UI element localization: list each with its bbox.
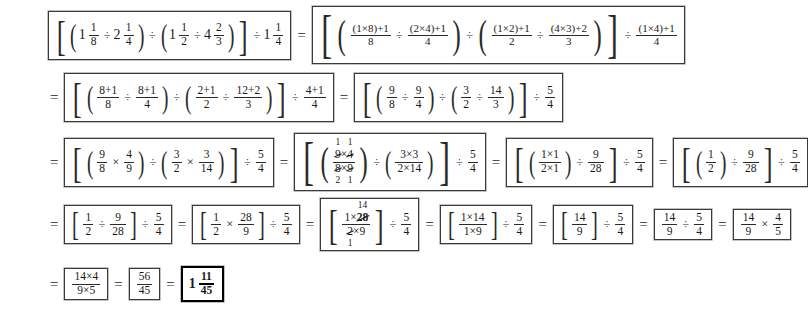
step-15-box: 149 × 45 (733, 209, 792, 240)
mixed-number: 4 23 (204, 22, 226, 47)
solution-line-4: = [ 12 ÷ 928 ] ÷ 54 = [ 12 × 289 ] ÷ 54 (44, 198, 791, 251)
right-paren-icon: ) (427, 147, 433, 178)
fraction: 32 (459, 85, 473, 110)
equals-sign: = (633, 216, 653, 233)
step-8-box: [ ( 12 ) ÷ 928 ] ÷ 54 (673, 138, 808, 187)
mixed-number: 1 14 (263, 22, 285, 47)
left-bracket-icon: [ (57, 14, 66, 57)
cancel-result-above: 14 (358, 201, 368, 211)
fraction: 149 (660, 212, 680, 237)
equals-sign: = (44, 216, 64, 233)
fraction: (2×4)+1 4 (406, 23, 450, 47)
left-paren-icon: ( (338, 15, 346, 55)
equals-sign: = (300, 216, 320, 233)
cancel-result-above: 1 (335, 138, 340, 148)
right-bracket-icon: ] (763, 141, 772, 184)
fraction: 3×3 2×14 (393, 149, 425, 174)
divide-operator: ÷ (147, 156, 160, 169)
equals-sign: = (44, 154, 64, 171)
right-bracket-icon: ] (229, 141, 238, 184)
fraction: 54 (543, 85, 557, 110)
multiply-operator: × (223, 218, 236, 231)
equals-sign: = (172, 216, 192, 233)
divide-operator: ÷ (370, 156, 383, 169)
right-paren-icon: ) (218, 147, 224, 178)
equals-sign: = (653, 154, 673, 171)
fraction: 54 (512, 212, 526, 237)
step-4-box: [ ( 98 ÷ 94 ) ÷ ( 32 ÷ 143 ) ] ÷ 54 (354, 73, 563, 122)
right-bracket-icon: ] (519, 76, 528, 119)
divide-operator: ÷ (95, 218, 108, 231)
fraction: 11 45 (197, 271, 217, 297)
right-bracket-icon: ] (491, 208, 498, 241)
fraction: 314 (197, 149, 217, 174)
equals-sign: = (44, 276, 64, 293)
cancel-result-below: 2 (335, 176, 340, 186)
left-bracket-icon: [ (304, 136, 315, 188)
step-9-box: [ 12 ÷ 928 ] ÷ 54 (64, 205, 171, 244)
cancelled-term: 8 2 (335, 163, 341, 175)
step-2-box: [ ( (1×8)+1 8 ÷ (2×4)+1 4 ) ÷ ( (1×2)+1 (312, 6, 685, 64)
fraction: 5645 (135, 271, 155, 296)
cancelled-term: 9 1 (347, 163, 353, 175)
equals-sign: = (108, 276, 128, 293)
left-paren-icon: ( (320, 142, 328, 182)
left-bracket-icon: [ (73, 208, 80, 241)
right-paren-icon: ) (162, 82, 168, 113)
divide-operator: ÷ (534, 29, 547, 42)
right-bracket-icon: ] (439, 136, 450, 188)
right-paren-icon: ) (138, 147, 144, 178)
fraction: 54 (399, 212, 413, 237)
fraction: 54 (788, 149, 802, 174)
left-paren-icon: ( (161, 147, 167, 178)
left-bracket-icon: [ (200, 208, 207, 241)
fraction: 98 (95, 149, 109, 174)
left-bracket-icon: [ (321, 9, 332, 61)
multiply-operator: × (184, 156, 197, 169)
mixed-number: 2 14 (114, 22, 136, 47)
divide-operator: ÷ (241, 156, 254, 169)
cancelled-term: 2 1 (347, 226, 353, 238)
fraction: 54 (254, 149, 268, 174)
equals-sign: = (712, 216, 732, 233)
step-7-box: [ ( 1×1 2×1 ) ÷ 928 ] ÷ 54 (506, 138, 653, 187)
multiply-operator: × (758, 218, 771, 231)
fraction-with-cancellation: 1× 14 28 2 1 ×9 (340, 201, 372, 248)
fraction: 45 (771, 212, 785, 237)
right-paren-icon: ) (508, 82, 514, 113)
fraction: (4×3)+2 3 (547, 23, 591, 47)
left-paren-icon: ( (529, 147, 535, 178)
divide-operator: ÷ (500, 218, 513, 231)
right-paren-icon: ) (720, 147, 726, 178)
fraction: 54 (152, 212, 166, 237)
left-bracket-icon: [ (329, 203, 338, 246)
cancel-result-below: 1 (348, 239, 353, 249)
right-paren-icon: ) (228, 20, 234, 51)
divide-operator: ÷ (600, 218, 613, 231)
divide-operator: ÷ (289, 91, 302, 104)
mixed-number: 1 12 (169, 22, 191, 47)
divide-operator: ÷ (453, 156, 466, 169)
left-paren-icon: ( (70, 20, 76, 51)
left-bracket-icon: [ (682, 141, 691, 184)
equals-sign: = (291, 27, 311, 44)
divide-operator: ÷ (775, 156, 788, 169)
step-14-box: 149 ÷ 54 (654, 209, 712, 240)
fraction: 8+1 4 (134, 85, 160, 110)
fraction: 32 (170, 149, 184, 174)
divide-operator: ÷ (139, 218, 152, 231)
fraction: 12 (81, 212, 95, 237)
fraction: 12 (704, 149, 718, 174)
right-paren-icon: ) (266, 82, 272, 113)
right-paren-icon: ) (453, 15, 461, 55)
fraction: 1×14 1×9 (457, 212, 489, 237)
right-bracket-icon: ] (592, 208, 599, 241)
fraction: 94 (412, 85, 426, 110)
right-paren-icon: ) (359, 142, 367, 182)
divide-operator: ÷ (530, 91, 543, 104)
fraction: 54 (613, 212, 627, 237)
equals-sign: = (419, 216, 439, 233)
fraction-with-cancellation: 1 9 × 1 4 8 2 × 9 1 (331, 138, 357, 185)
fraction: 98 (385, 85, 399, 110)
